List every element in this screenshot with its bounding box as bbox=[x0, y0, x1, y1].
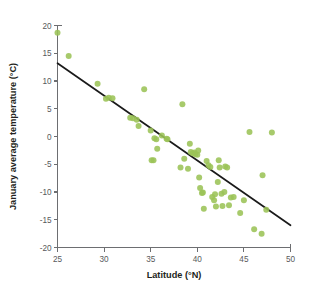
data-point bbox=[153, 136, 159, 142]
y-tick-label: 5 bbox=[47, 105, 52, 114]
y-tick-label: -15 bbox=[40, 216, 52, 225]
x-tick-label: 45 bbox=[239, 255, 249, 264]
data-point bbox=[95, 81, 101, 87]
plot-axes bbox=[58, 26, 291, 248]
data-point bbox=[179, 101, 185, 107]
x-tick-label: 50 bbox=[286, 255, 296, 264]
data-point bbox=[136, 123, 142, 129]
data-point bbox=[211, 197, 217, 203]
data-point bbox=[154, 146, 160, 152]
data-point bbox=[141, 86, 147, 92]
data-point bbox=[109, 95, 115, 101]
y-tick-label: 0 bbox=[47, 133, 52, 142]
y-axis-title: January average temperature (°C) bbox=[8, 63, 18, 210]
data-point bbox=[207, 164, 213, 170]
data-point bbox=[224, 165, 230, 171]
data-point bbox=[215, 179, 221, 185]
y-tick-label: 10 bbox=[42, 77, 52, 86]
x-tick-label: 40 bbox=[193, 255, 203, 264]
data-point bbox=[201, 206, 207, 212]
y-tick-label: 20 bbox=[42, 22, 52, 31]
data-point bbox=[212, 191, 218, 197]
data-point bbox=[251, 226, 257, 232]
data-point bbox=[181, 156, 187, 162]
data-point bbox=[219, 203, 225, 209]
data-point bbox=[246, 129, 252, 135]
y-tick-label: -10 bbox=[40, 188, 52, 197]
data-point bbox=[185, 166, 191, 172]
data-point bbox=[195, 147, 201, 153]
data-point bbox=[241, 197, 247, 203]
chart-canvas: 20151050-5-10-15-20253035404550Latitude … bbox=[0, 0, 312, 292]
data-point bbox=[216, 157, 222, 163]
data-point bbox=[213, 203, 219, 209]
data-point bbox=[260, 172, 266, 178]
x-tick-label: 30 bbox=[100, 255, 110, 264]
data-point bbox=[221, 189, 227, 195]
data-point bbox=[55, 30, 61, 36]
data-point bbox=[226, 202, 232, 208]
data-point bbox=[66, 53, 72, 59]
data-point bbox=[237, 210, 243, 216]
data-point bbox=[148, 127, 154, 133]
data-point bbox=[196, 175, 202, 181]
x-tick-label: 35 bbox=[146, 255, 156, 264]
data-point bbox=[259, 231, 265, 237]
data-point bbox=[151, 157, 157, 163]
data-point bbox=[178, 165, 184, 171]
regression-line bbox=[58, 63, 291, 225]
data-point bbox=[187, 141, 193, 147]
x-tick-label: 25 bbox=[53, 255, 63, 264]
data-point bbox=[217, 165, 223, 171]
y-tick-label: -20 bbox=[40, 244, 52, 253]
data-point bbox=[231, 194, 237, 200]
scatter-plot-figure: 20151050-5-10-15-20253035404550Latitude … bbox=[0, 0, 312, 292]
x-axis-title: Latitude (°N) bbox=[147, 270, 202, 280]
y-tick-label: 15 bbox=[42, 49, 52, 58]
data-point bbox=[134, 117, 140, 123]
y-tick-label: -5 bbox=[44, 160, 52, 169]
data-point bbox=[269, 130, 275, 136]
data-point bbox=[164, 136, 170, 142]
data-point bbox=[263, 207, 269, 213]
data-point bbox=[200, 190, 206, 196]
